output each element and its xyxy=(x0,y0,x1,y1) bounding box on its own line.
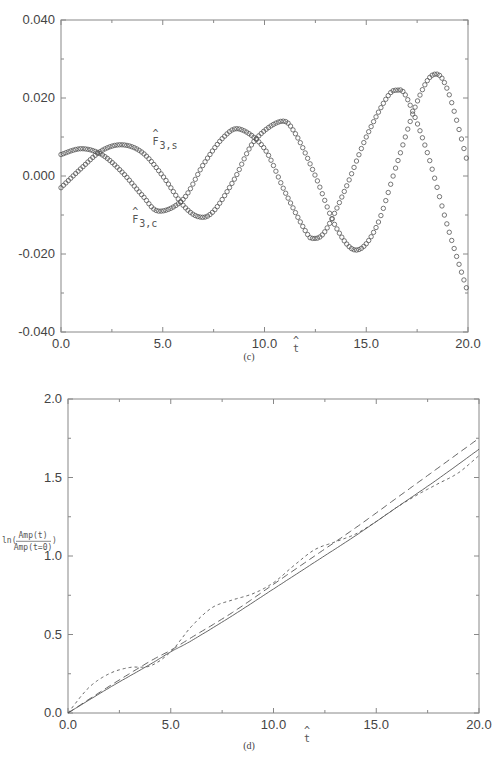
y-tick-label: 0.0 xyxy=(44,705,62,720)
chart-c: 0.05.010.015.020.0-0.040-0.0200.0000.020… xyxy=(18,12,481,363)
hat-accent: ^ xyxy=(132,206,138,217)
y-axis-label-denominator: Amp(t=0) xyxy=(14,543,53,552)
y-tick-label: 0.5 xyxy=(44,627,62,642)
figure: 0.05.010.015.020.0-0.040-0.0200.0000.020… xyxy=(0,0,498,762)
figure-caption: (c) xyxy=(243,351,254,363)
y-tick-label: 1.5 xyxy=(44,470,62,485)
y-tick-label: 0.000 xyxy=(22,168,55,183)
y-tick-label: 0.040 xyxy=(22,12,55,27)
x-tick-label: 15.0 xyxy=(354,336,379,351)
series-3-c xyxy=(59,72,469,252)
y-tick-label: -0.020 xyxy=(18,246,55,261)
hat-accent: ^ xyxy=(304,725,310,736)
plot-frame xyxy=(61,20,468,332)
x-tick-label: 5.0 xyxy=(154,336,172,351)
y-tick-label: 0.020 xyxy=(22,90,55,105)
plot-frame xyxy=(68,399,479,713)
y-axis-label-close: ) xyxy=(52,536,57,545)
hat-accent: ^ xyxy=(153,128,159,139)
x-tick-label: 5.0 xyxy=(162,717,180,732)
x-tick-label: 10.0 xyxy=(261,717,286,732)
figure-caption: (d) xyxy=(243,740,255,752)
y-tick-label: -0.040 xyxy=(18,324,55,339)
y-axis-label-numerator: Amp(t) xyxy=(19,531,48,540)
x-tick-label: 15.0 xyxy=(364,717,389,732)
x-tick-label: 20.0 xyxy=(455,336,480,351)
series-label-subscript: 3,s xyxy=(160,140,178,151)
y-tick-label: 2.0 xyxy=(44,391,62,406)
hat-accent: ^ xyxy=(293,335,299,346)
x-tick-label: 10.0 xyxy=(252,336,277,351)
series-line-solid xyxy=(68,449,479,713)
series-label-subscript: 3,c xyxy=(139,218,157,229)
x-tick-label: 20.0 xyxy=(466,717,491,732)
series-3-s xyxy=(59,88,469,290)
chart-d: 0.05.010.015.020.00.00.51.01.52.0t^(d)ln… xyxy=(2,391,492,752)
series-line-long-dashed xyxy=(68,438,479,713)
